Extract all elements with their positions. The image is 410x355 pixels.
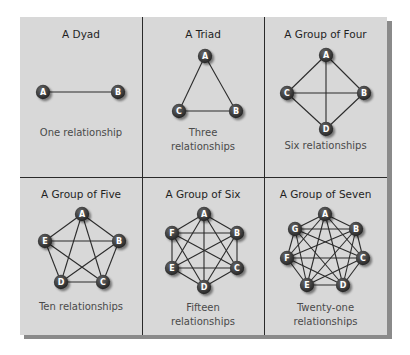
node-label: G — [292, 225, 299, 234]
node-label: D — [323, 125, 330, 134]
edge-b-d — [61, 241, 119, 282]
node-label: A — [40, 88, 47, 97]
node-b: B — [229, 104, 243, 118]
node-label: D — [201, 283, 208, 292]
node-c: C — [230, 261, 244, 275]
node-a: A — [318, 207, 332, 221]
node-a: A — [197, 207, 211, 221]
node-d: D — [336, 278, 350, 292]
cell-title-a-group-of-seven: A Group of Seven — [264, 188, 387, 200]
node-label: C — [284, 89, 290, 98]
node-label: B — [361, 89, 367, 98]
node-b: B — [349, 222, 363, 236]
edges-layer — [43, 55, 364, 287]
node-label: A — [201, 210, 208, 219]
node-label: B — [116, 237, 122, 246]
cell-title-a-triad: A Triad — [142, 28, 264, 40]
node-label: E — [42, 237, 47, 246]
edge-a-c — [179, 56, 205, 111]
cell-title-a-group-of-four: A Group of Four — [264, 28, 387, 40]
cell-title-a-group-of-five: A Group of Five — [20, 188, 142, 200]
node-f: F — [165, 226, 179, 240]
node-c: C — [356, 251, 370, 265]
node-e: E — [300, 278, 314, 292]
node-label: B — [234, 229, 240, 238]
node-c: C — [280, 86, 294, 100]
node-e: E — [38, 234, 52, 248]
node-c: C — [172, 104, 186, 118]
caption-line: relationships — [142, 315, 264, 329]
node-a: A — [75, 207, 89, 221]
node-label: A — [323, 51, 330, 60]
edge-a-b — [326, 55, 364, 93]
node-label: A — [202, 52, 209, 61]
node-label: B — [115, 88, 121, 97]
edge-c-d — [287, 93, 326, 129]
cell-caption-a-group-of-seven: Twenty-onerelationships — [264, 301, 387, 329]
cell-caption-a-group-of-four: Six relationships — [264, 139, 387, 153]
edge-b-d — [326, 93, 364, 129]
node-b: B — [357, 86, 371, 100]
node-label: E — [169, 264, 174, 273]
node-label: D — [58, 278, 65, 287]
node-label: B — [353, 225, 359, 234]
node-label: C — [176, 107, 182, 116]
caption-line: Three — [142, 126, 264, 140]
node-e: E — [165, 261, 179, 275]
node-a: A — [319, 48, 333, 62]
cell-title-a-group-of-six: A Group of Six — [142, 188, 264, 200]
edge-a-b — [205, 56, 236, 111]
node-b: B — [112, 234, 126, 248]
edge-a-c — [82, 214, 103, 282]
caption-line: One relationship — [20, 126, 142, 140]
node-a: A — [198, 49, 212, 63]
relationship-networks-figure: ABABCABCDABCDEABCDEFABCDEFG A DyadOne re… — [0, 0, 410, 355]
cell-caption-a-group-of-five: Ten relationships — [20, 300, 142, 314]
cell-caption-a-group-of-six: Fifteenrelationships — [142, 301, 264, 329]
node-label: F — [169, 229, 174, 238]
caption-line: relationships — [142, 140, 264, 154]
cell-caption-a-dyad: One relationship — [20, 126, 142, 140]
node-label: C — [360, 254, 366, 263]
node-label: D — [340, 281, 347, 290]
node-label: C — [100, 278, 106, 287]
node-c: C — [96, 275, 110, 289]
node-label: A — [79, 210, 86, 219]
node-label: C — [234, 264, 240, 273]
node-a: A — [36, 85, 50, 99]
node-label: E — [304, 281, 309, 290]
caption-line: Twenty-one — [264, 301, 387, 315]
node-label: B — [233, 107, 239, 116]
node-label: F — [284, 254, 289, 263]
edge-a-d — [61, 214, 82, 282]
caption-line: Ten relationships — [20, 300, 142, 314]
node-g: G — [288, 222, 302, 236]
node-f: F — [280, 251, 294, 265]
node-d: D — [197, 280, 211, 294]
caption-line: Six relationships — [264, 139, 387, 153]
node-b: B — [230, 226, 244, 240]
cell-title-a-dyad: A Dyad — [20, 28, 142, 40]
caption-line: Fifteen — [142, 301, 264, 315]
edge-a-c — [287, 55, 326, 93]
node-b: B — [111, 85, 125, 99]
node-label: A — [322, 210, 329, 219]
node-d: D — [319, 122, 333, 136]
edge-c-e — [45, 241, 103, 282]
node-d: D — [54, 275, 68, 289]
caption-line: relationships — [264, 315, 387, 329]
cell-caption-a-triad: Threerelationships — [142, 126, 264, 154]
